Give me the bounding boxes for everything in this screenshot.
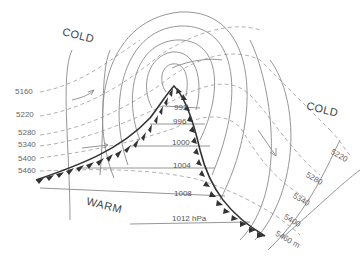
isobar-label-1000: 1000 <box>172 139 190 147</box>
height-label-left-0: 5160 <box>15 88 33 96</box>
isobar-label-1004: 1004 <box>173 162 191 170</box>
height-label-left-3: 5340 <box>18 141 36 149</box>
isobar-label-1012: 1012 hPa <box>172 215 206 223</box>
isobar-label-996: 996 <box>173 118 186 126</box>
cyclone-diagram: COLD COLD WARM 5160 5220 5280 5340 5400 … <box>0 0 364 262</box>
height-label-left-5: 5460 <box>18 167 36 175</box>
height-label-left-2: 5280 <box>18 129 36 137</box>
height-label-left-4: 5400 <box>18 155 36 163</box>
height-label-left-1: 5220 <box>16 111 34 119</box>
isobar-label-1008: 1008 <box>174 190 192 198</box>
isobar-label-992: 992 <box>174 104 187 112</box>
